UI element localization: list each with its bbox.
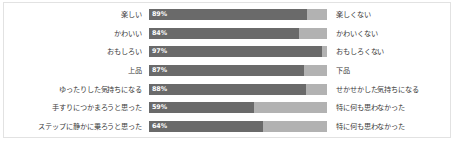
bar-fill (149, 84, 306, 95)
row-right-label: せかせかした気持ちになる (327, 86, 419, 93)
bar-track: 84% (149, 28, 327, 39)
bar-value-label: 97% (152, 46, 167, 57)
row-right-label: 楽しくない (327, 11, 371, 18)
bar-fill (149, 46, 322, 57)
row-right-label: かわいくない (327, 30, 377, 37)
bar-fill (149, 9, 307, 20)
bar-value-label: 64% (152, 121, 167, 132)
row-left-label: おもしろい (3, 48, 149, 55)
bar-track: 59% (149, 102, 327, 113)
row-right-label: おもしろくない (327, 48, 384, 55)
table-row: 手すりにつかまろうと思った 59% 特に何も思わなかった (3, 100, 451, 115)
row-left-label: ゆったりした気持ちになる (3, 86, 149, 93)
bar-value-label: 59% (152, 102, 167, 113)
row-right-label: 下品 (327, 67, 350, 74)
table-row: 上品 87% 下品 (3, 63, 451, 78)
row-left-label: ステップに静かに乗ろうと思った (3, 123, 149, 130)
table-row: ステップに静かに乗ろうと思った 64% 特に何も思わなかった (3, 119, 451, 134)
table-row: 楽しい 89% 楽しくない (3, 7, 451, 22)
table-row: ゆったりした気持ちになる 88% せかせかした気持ちになる (3, 82, 451, 97)
bar-fill (149, 65, 304, 76)
bar-fill (149, 28, 299, 39)
bar-track: 64% (149, 121, 327, 132)
row-left-label: かわいい (3, 30, 149, 37)
bar-value-label: 87% (152, 65, 167, 76)
bar-track: 97% (149, 46, 327, 57)
chart-rows: 楽しい 89% 楽しくない かわいい 84% かわいくない おもしろい 97% … (3, 2, 451, 138)
row-left-label: 手すりにつかまろうと思った (3, 104, 149, 111)
bar-value-label: 88% (152, 84, 167, 95)
row-right-label: 特に何も思わなかった (327, 104, 405, 111)
bar-value-label: 84% (152, 28, 167, 39)
bar-track: 88% (149, 84, 327, 95)
row-left-label: 楽しい (3, 11, 149, 18)
bar-track: 87% (149, 65, 327, 76)
table-row: かわいい 84% かわいくない (3, 26, 451, 41)
table-row: おもしろい 97% おもしろくない (3, 44, 451, 59)
row-right-label: 特に何も思わなかった (327, 123, 405, 130)
bar-track: 89% (149, 9, 327, 20)
chart-figure: 楽しい 89% 楽しくない かわいい 84% かわいくない おもしろい 97% … (0, 0, 454, 150)
bar-value-label: 89% (152, 9, 167, 20)
row-left-label: 上品 (3, 67, 149, 74)
